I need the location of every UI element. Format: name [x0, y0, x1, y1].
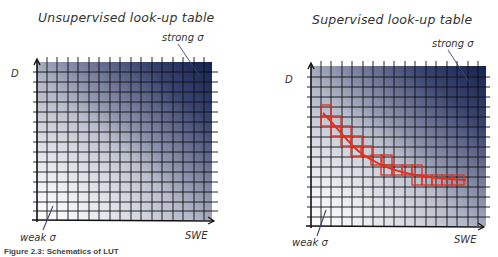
diagram-canvas [0, 0, 498, 257]
right-lut-grid [306, 50, 490, 236]
left-lut-grid [32, 44, 218, 230]
